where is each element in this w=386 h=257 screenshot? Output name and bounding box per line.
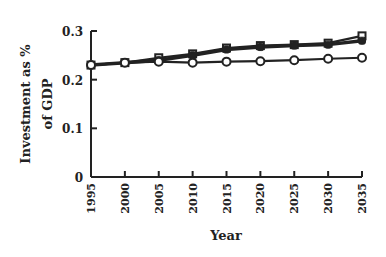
data-point-circle [223, 58, 231, 66]
axes: 00.10.20.3199520002005201020152020202520… [62, 25, 369, 214]
data-point-filled [257, 44, 264, 51]
data-point-circle [256, 57, 264, 65]
x-tick-label: 2035 [356, 183, 369, 214]
line-chart: 00.10.20.3199520002005201020152020202520… [0, 0, 386, 257]
y-tick-label: 0.1 [62, 122, 83, 136]
x-tick-label: 2025 [288, 183, 301, 214]
x-tick-label: 2000 [119, 183, 132, 214]
data-point-circle [87, 61, 95, 69]
data-point-filled [223, 46, 230, 53]
series-group [87, 32, 366, 69]
data-point-circle [155, 58, 163, 66]
data-point-circle [121, 59, 129, 67]
y-axis-label-line2: of GDP [40, 78, 55, 129]
data-point-filled [325, 41, 332, 48]
data-point-filled [291, 42, 298, 49]
data-point-circle [324, 55, 332, 63]
data-point-circle [358, 54, 366, 62]
y-tick-label: 0.3 [62, 25, 83, 39]
y-tick-label: 0.2 [62, 74, 83, 88]
data-point-filled [359, 37, 366, 44]
x-tick-label: 2020 [254, 183, 267, 214]
x-tick-label: 1995 [85, 183, 98, 214]
x-tick-label: 2005 [153, 183, 166, 214]
x-tick-label: 2010 [187, 183, 200, 214]
data-point-circle [189, 59, 197, 67]
x-tick-label: 2015 [221, 183, 234, 214]
x-tick-label: 2030 [322, 183, 335, 214]
data-point-circle [290, 56, 298, 64]
x-axis-label: Year [209, 228, 242, 243]
y-axis-label-line1: Investment as % [18, 44, 33, 164]
y-tick-label: 0 [75, 171, 83, 185]
